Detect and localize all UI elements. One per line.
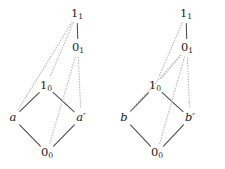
node-1-sub-1-base: 1 — [180, 6, 187, 20]
edge-0-1-to-0-0 — [160, 57, 185, 144]
node-b-prime-base: b′ — [185, 110, 195, 124]
node-1-sub-0-base: 1 — [149, 78, 156, 92]
edge-0-1-to-1-0 — [161, 55, 181, 78]
node-0-sub-0-base: 0 — [41, 145, 48, 159]
node-1-sub-1-base: 1 — [71, 6, 78, 20]
node-1-sub-1: 11 — [71, 6, 83, 21]
figure-root: 110110aa′00110110bb′00 — [0, 0, 225, 169]
edge-1-0-to-a — [20, 93, 39, 112]
node-0-sub-1-subscript: 1 — [79, 46, 84, 55]
node-0-sub-1-base: 0 — [181, 40, 188, 54]
edge-0-1-to-b-prime — [187, 57, 189, 108]
node-0-sub-1: 01 — [181, 40, 193, 55]
left-lattice-diagram-nodes: 110110aa′00 — [10, 6, 87, 160]
node-0-sub-0: 00 — [151, 145, 163, 160]
node-1-sub-1-subscript: 1 — [78, 12, 83, 21]
node-a-base: a — [10, 110, 17, 124]
node-b-base: b — [120, 110, 127, 124]
node-0-sub-1-base: 0 — [72, 40, 79, 54]
edge-1-0-to-a-prime — [53, 92, 74, 111]
edge-b-to-0-0 — [131, 125, 151, 146]
node-1-sub-0: 10 — [40, 78, 52, 93]
node-0-sub-0-subscript: 0 — [48, 151, 53, 160]
node-0-sub-0: 00 — [41, 145, 53, 160]
node-0-sub-0-subscript: 0 — [158, 151, 163, 160]
edge-b-prime-to-0-0 — [164, 125, 184, 146]
edge-a-to-0-0 — [20, 125, 41, 146]
edge-1-1-to-1-0 — [159, 23, 182, 78]
nodes-layer: 110110aa′00110110bb′00 — [10, 6, 196, 160]
node-b-prime: b′ — [185, 110, 195, 124]
edge-1-1-to-1-0 — [50, 23, 73, 78]
node-a-prime: a′ — [76, 110, 86, 124]
node-0-sub-0-base: 0 — [151, 145, 158, 159]
lattice-diagram-canvas: 110110aa′00110110bb′00 — [0, 0, 225, 169]
node-1-sub-0-subscript: 0 — [156, 84, 161, 93]
node-0-sub-1: 01 — [72, 40, 84, 55]
right-lattice-diagram-nodes: 110110bb′00 — [120, 6, 195, 160]
edge-0-1-to-a-prime — [78, 57, 80, 108]
node-b: b — [120, 110, 127, 124]
edge-1-0-to-b-prime — [162, 92, 183, 111]
node-1-sub-1-subscript: 1 — [187, 12, 192, 21]
node-a-prime-base: a′ — [76, 110, 86, 124]
node-a: a — [10, 110, 17, 124]
node-1-sub-0-subscript: 0 — [47, 84, 52, 93]
edge-1-0-to-b — [131, 93, 149, 111]
node-0-sub-1-subscript: 1 — [188, 46, 193, 55]
node-1-sub-1: 11 — [180, 6, 192, 21]
node-1-sub-0-base: 1 — [40, 78, 47, 92]
node-1-sub-0: 10 — [149, 78, 161, 93]
edge-a-prime-to-0-0 — [54, 125, 75, 146]
